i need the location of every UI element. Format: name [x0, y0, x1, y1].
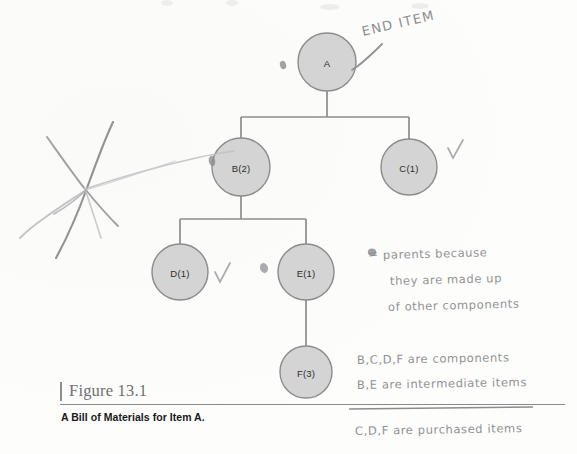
node-a-label: A: [324, 58, 331, 69]
node-e: E(1): [278, 244, 334, 300]
tree-nodes: A B(2) C(1) D(1) E(1) F(3): [152, 33, 437, 398]
figure-vertical-rule: [60, 382, 62, 401]
node-a: A: [298, 33, 356, 91]
node-b-label: B(2): [232, 163, 251, 174]
node-f-label: F(3): [297, 368, 315, 379]
node-d: D(1): [152, 244, 208, 300]
node-c: C(1): [381, 139, 437, 195]
annotation-intermediate-note: B,E are intermediate items: [357, 375, 527, 392]
figure-label-block: Figure 13.1: [60, 381, 360, 402]
node-c-label: C(1): [399, 163, 418, 174]
figure-caption: A Bill of Materials for Item A.: [61, 411, 205, 423]
figure-number-row: Figure 13.1: [60, 381, 360, 402]
annotation-parents-line2: they are made up: [390, 271, 502, 288]
node-d-label: D(1): [170, 268, 189, 279]
scanned-textbook-page: A B(2) C(1) D(1) E(1) F(3): [0, 0, 577, 454]
node-e-label: E(1): [297, 268, 316, 279]
figure-number: Figure 13.1: [69, 383, 147, 400]
node-b: B(2): [212, 138, 270, 196]
annotation-parents-line1: parents because: [383, 245, 488, 262]
figure-horizontal-rule: [60, 404, 565, 405]
tree-connectors: [180, 91, 409, 346]
annotation-purchased-note: C,D,F are purchased items: [355, 421, 523, 438]
annotation-legend-equals: =: [367, 246, 379, 261]
annotation-components-note: B,C,D,F are components: [357, 350, 510, 367]
